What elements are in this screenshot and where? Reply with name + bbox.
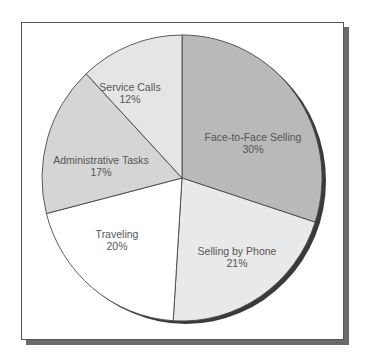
slice-name: Selling by Phone	[198, 245, 277, 257]
slice-label-face-to-face-selling: Face-to-Face Selling 30%	[205, 131, 302, 155]
slice-percent: 20%	[96, 240, 139, 252]
slice-name: Administrative Tasks	[53, 154, 149, 166]
slice-percent: 30%	[205, 143, 302, 155]
slice-label-service-calls: Service Calls 12%	[99, 81, 160, 105]
slice-percent: 17%	[53, 166, 149, 178]
slice-label-administrative-tasks: Administrative Tasks 17%	[53, 154, 149, 178]
pie-slices	[42, 35, 322, 321]
slice-name: Face-to-Face Selling	[205, 131, 302, 143]
slice-name: Service Calls	[99, 81, 160, 93]
slice-name: Traveling	[96, 228, 139, 240]
pie-chart	[0, 0, 369, 363]
slice-percent: 21%	[198, 257, 277, 269]
slice-label-selling-by-phone: Selling by Phone 21%	[198, 245, 277, 269]
slice-label-traveling: Traveling 20%	[96, 228, 139, 252]
slice-percent: 12%	[99, 93, 160, 105]
